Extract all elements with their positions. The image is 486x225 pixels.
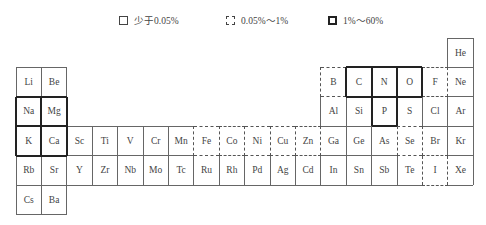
cell-border <box>295 155 320 156</box>
cell-border <box>66 67 67 96</box>
cell-border <box>346 185 371 186</box>
element-symbol: Cd <box>303 165 314 175</box>
element-symbol: Cr <box>151 136 161 146</box>
element-symbol: Na <box>23 106 34 116</box>
cell-border <box>447 38 448 67</box>
element-symbol: Cs <box>24 195 34 205</box>
cell-border <box>448 185 473 186</box>
element-symbol: Mn <box>174 136 187 146</box>
cell-border <box>16 214 41 215</box>
element-cell-cu: Cu <box>270 126 295 155</box>
cell-border <box>41 125 66 127</box>
element-symbol: I <box>434 165 437 175</box>
element-symbol: Li <box>24 77 32 87</box>
element-symbol: Br <box>430 136 440 146</box>
element-cell-se: Se <box>397 126 422 155</box>
cell-border <box>371 97 373 126</box>
cell-border <box>397 126 422 127</box>
cell-border <box>346 96 371 98</box>
cell-border <box>270 126 271 155</box>
cell-border <box>422 96 447 97</box>
element-cell-b: B <box>321 67 346 96</box>
element-cell-v: V <box>118 126 143 155</box>
element-cell-c: C <box>346 67 371 96</box>
cell-border <box>295 126 296 155</box>
cell-border <box>448 67 473 68</box>
element-symbol: Y <box>76 165 83 175</box>
element-symbol: Fe <box>202 136 212 146</box>
cell-border <box>295 156 296 185</box>
cell-border <box>321 126 346 127</box>
cell-border <box>372 96 397 98</box>
cell-border <box>66 156 67 185</box>
cell-border <box>168 155 193 156</box>
cell-border <box>41 214 66 215</box>
cell-border <box>321 185 346 186</box>
cell-border <box>473 38 474 67</box>
legend-dashed-box-icon <box>226 16 235 25</box>
cell-border <box>372 66 397 68</box>
element-cell-pd: Pd <box>245 156 270 185</box>
element-cell-kr: Kr <box>448 126 473 155</box>
cell-border <box>244 156 245 185</box>
element-cell-p: P <box>372 97 397 126</box>
element-cell-tc: Tc <box>168 156 193 185</box>
element-symbol: Zn <box>303 136 314 146</box>
cell-border <box>143 156 144 185</box>
element-cell-rb: Rb <box>16 156 41 185</box>
element-symbol: Ga <box>328 136 339 146</box>
element-symbol: Ge <box>353 136 364 146</box>
element-cell-br: Br <box>422 126 447 155</box>
cell-border <box>92 155 117 156</box>
cell-border <box>117 126 118 155</box>
element-symbol: Ne <box>455 77 466 87</box>
element-symbol: Te <box>405 165 414 175</box>
cell-border <box>397 66 422 68</box>
cell-border <box>346 155 371 156</box>
cell-border <box>168 126 169 155</box>
element-cell-mg: Mg <box>41 97 66 126</box>
cell-border <box>16 185 41 186</box>
element-symbol: Rb <box>23 165 34 175</box>
element-symbol: Sb <box>379 165 389 175</box>
element-symbol: Ti <box>101 136 109 146</box>
element-cell-sn: Sn <box>346 156 371 185</box>
cell-border <box>118 185 143 186</box>
cell-border <box>16 67 17 96</box>
element-cell-y: Y <box>67 156 92 185</box>
cell-border <box>117 156 118 185</box>
cell-border <box>67 185 92 186</box>
element-cell-al: Al <box>321 97 346 126</box>
element-cell-cl: Cl <box>422 97 447 126</box>
element-symbol: B <box>330 77 336 87</box>
cell-border <box>447 67 448 96</box>
element-cell-ar: Ar <box>448 97 473 126</box>
cell-border <box>219 155 244 156</box>
cell-border <box>193 126 194 155</box>
cell-border <box>143 185 168 186</box>
element-symbol: Ar <box>455 106 465 116</box>
cell-border <box>320 67 321 96</box>
element-cell-mo: Mo <box>143 156 168 185</box>
cell-border <box>16 125 41 127</box>
cell-border <box>41 67 42 96</box>
cell-border <box>168 156 169 185</box>
cell-border <box>371 67 373 96</box>
cell-border <box>16 96 41 98</box>
cell-border <box>270 155 295 156</box>
cell-border <box>448 96 473 97</box>
cell-border <box>66 126 68 155</box>
element-cell-ga: Ga <box>321 126 346 155</box>
cell-border <box>346 66 371 68</box>
element-cell-n: N <box>372 67 397 96</box>
cell-border <box>321 67 346 68</box>
cell-border <box>41 156 42 185</box>
element-cell-ge: Ge <box>346 126 371 155</box>
legend-item-trace: 少于0.05% <box>119 13 179 27</box>
cell-border <box>320 126 321 155</box>
cell-border <box>41 155 66 157</box>
element-cell-be: Be <box>41 67 66 96</box>
element-symbol: In <box>330 165 338 175</box>
element-cell-zr: Zr <box>92 156 117 185</box>
element-symbol: V <box>127 136 134 146</box>
